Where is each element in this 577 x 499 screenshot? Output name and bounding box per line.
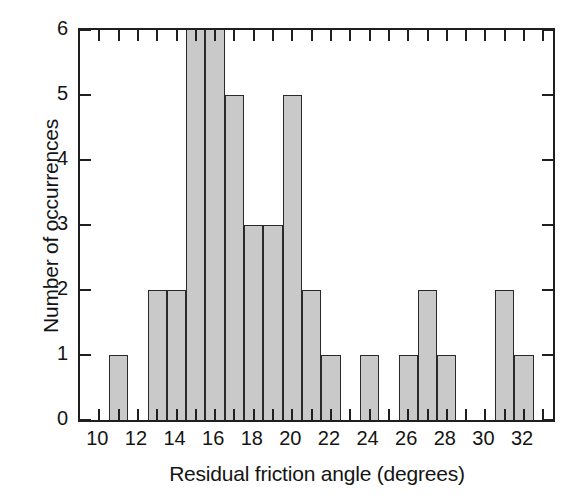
histogram-bar xyxy=(186,28,205,420)
x-tick-mark xyxy=(427,409,429,420)
x-tick-mark-top xyxy=(311,30,313,41)
y-tick-mark-right xyxy=(542,419,553,421)
x-tick-mark xyxy=(233,409,235,420)
y-tick-mark xyxy=(80,94,91,96)
x-tick-mark xyxy=(176,409,178,420)
x-tick-mark-top xyxy=(388,30,390,41)
x-tick-mark xyxy=(523,409,525,420)
x-tick-mark-top xyxy=(349,30,351,41)
x-tick-label: 18 xyxy=(241,427,263,450)
histogram-bar xyxy=(167,290,186,420)
x-tick-mark xyxy=(156,409,158,420)
x-tick-mark xyxy=(446,409,448,420)
x-tick-mark-top xyxy=(137,30,139,41)
bars-layer xyxy=(80,30,553,420)
x-tick-mark-top xyxy=(272,30,274,41)
y-tick-mark xyxy=(80,354,91,356)
x-tick-mark xyxy=(272,409,274,420)
y-tick-label: 5 xyxy=(44,82,68,105)
x-tick-mark-top xyxy=(465,30,467,41)
histogram-bar xyxy=(418,290,437,420)
x-tick-label: 26 xyxy=(395,427,417,450)
x-tick-mark xyxy=(330,409,332,420)
x-tick-mark-top xyxy=(427,30,429,41)
y-tick-label: 1 xyxy=(44,342,68,365)
x-tick-mark xyxy=(98,409,100,420)
histogram-figure: Number of occurrences 101214161820222426… xyxy=(0,0,577,499)
x-tick-mark-top xyxy=(233,30,235,41)
y-tick-mark xyxy=(80,224,91,226)
y-tick-label: 0 xyxy=(44,407,68,430)
x-tick-mark xyxy=(407,409,409,420)
x-tick-mark xyxy=(465,409,467,420)
histogram-bar xyxy=(495,290,514,420)
y-tick-label: 4 xyxy=(44,147,68,170)
x-tick-mark-top xyxy=(253,30,255,41)
y-tick-mark-right xyxy=(542,29,553,31)
x-axis-title: Residual friction angle (degrees) xyxy=(78,462,556,486)
histogram-bar xyxy=(205,28,224,420)
y-tick-label: 6 xyxy=(44,17,68,40)
x-tick-mark xyxy=(369,409,371,420)
x-tick-mark xyxy=(388,409,390,420)
x-tick-mark-top xyxy=(195,30,197,41)
x-tick-mark xyxy=(349,409,351,420)
histogram-bar xyxy=(283,95,302,420)
x-tick-mark-top xyxy=(369,30,371,41)
x-tick-mark-top xyxy=(214,30,216,41)
x-tick-label: 24 xyxy=(356,427,378,450)
x-tick-mark-top xyxy=(98,30,100,41)
x-tick-mark-top xyxy=(156,30,158,41)
x-tick-mark xyxy=(291,409,293,420)
x-tick-mark-top xyxy=(291,30,293,41)
x-tick-mark xyxy=(253,409,255,420)
x-tick-mark-top xyxy=(504,30,506,41)
x-tick-label: 14 xyxy=(163,427,185,450)
x-tick-mark xyxy=(214,409,216,420)
y-tick-label: 3 xyxy=(44,212,68,235)
x-tick-label: 32 xyxy=(511,427,533,450)
y-tick-mark xyxy=(80,29,91,31)
y-tick-mark xyxy=(80,419,91,421)
x-tick-mark-top xyxy=(446,30,448,41)
x-tick-mark xyxy=(118,409,120,420)
x-tick-label: 30 xyxy=(472,427,494,450)
x-tick-mark xyxy=(195,409,197,420)
y-tick-mark xyxy=(80,159,91,161)
x-tick-mark xyxy=(504,409,506,420)
y-tick-mark xyxy=(80,289,91,291)
x-tick-mark-top xyxy=(118,30,120,41)
y-tick-mark-right xyxy=(542,224,553,226)
histogram-bar xyxy=(302,290,321,420)
y-tick-mark-right xyxy=(542,159,553,161)
x-tick-label: 12 xyxy=(125,427,147,450)
x-tick-mark xyxy=(137,409,139,420)
plot-area xyxy=(78,28,555,422)
histogram-bar xyxy=(225,95,244,420)
y-tick-label: 2 xyxy=(44,277,68,300)
x-tick-mark-top xyxy=(542,30,544,41)
x-tick-mark-top xyxy=(330,30,332,41)
y-tick-mark-right xyxy=(542,289,553,291)
y-tick-mark-right xyxy=(542,354,553,356)
histogram-bar xyxy=(244,225,263,420)
histogram-bar xyxy=(263,225,282,420)
x-tick-label: 16 xyxy=(202,427,224,450)
x-tick-mark-top xyxy=(176,30,178,41)
histogram-bar xyxy=(148,290,167,420)
x-tick-label: 22 xyxy=(318,427,340,450)
x-tick-mark xyxy=(484,409,486,420)
x-tick-mark-top xyxy=(484,30,486,41)
x-tick-mark xyxy=(311,409,313,420)
x-tick-mark-top xyxy=(523,30,525,41)
x-tick-label: 28 xyxy=(434,427,456,450)
x-tick-label: 20 xyxy=(279,427,301,450)
y-tick-mark-right xyxy=(542,94,553,96)
x-tick-mark-top xyxy=(407,30,409,41)
x-tick-label: 10 xyxy=(86,427,108,450)
